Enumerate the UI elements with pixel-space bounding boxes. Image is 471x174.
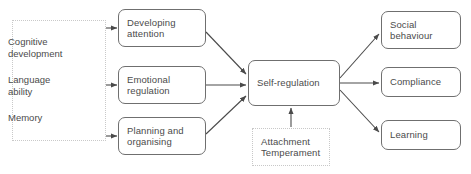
edge-planning-to-self — [206, 96, 246, 134]
node-learning-label: Learning — [390, 129, 428, 141]
diagram-canvas: Cognitive development Language ability M… — [0, 0, 471, 174]
edge-self-to-social — [340, 34, 379, 78]
node-social-behaviour: Social behaviour — [381, 11, 461, 49]
group-item-cognitive-development: Cognitive development — [8, 36, 62, 59]
node-compliance-label: Compliance — [390, 76, 441, 88]
group-item-language-ability: Language ability — [8, 74, 50, 97]
node-compliance: Compliance — [381, 67, 461, 97]
edge-attention-to-self — [206, 32, 246, 74]
node-developing-attention-label: Developing attention — [127, 17, 176, 40]
node-attachment-temperament-label: Attachment Temperament — [261, 136, 320, 159]
node-developing-attention: Developing attention — [118, 9, 206, 47]
edge-self-to-learning — [340, 90, 379, 132]
node-self-regulation-label: Self-regulation — [257, 77, 320, 89]
node-emotional-regulation: Emotional regulation — [118, 66, 206, 104]
node-self-regulation: Self-regulation — [248, 60, 340, 106]
node-planning-and-organising: Planning and organising — [118, 117, 206, 155]
node-emotional-regulation-label: Emotional regulation — [127, 74, 170, 97]
node-attachment-temperament: Attachment Temperament — [252, 128, 330, 166]
group-item-memory: Memory — [8, 112, 42, 124]
node-planning-and-organising-label: Planning and organising — [127, 125, 184, 148]
node-learning: Learning — [381, 120, 461, 150]
node-social-behaviour-label: Social behaviour — [390, 19, 433, 42]
